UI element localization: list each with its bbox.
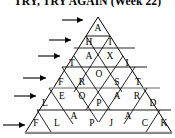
letter-cell: R [131,91,143,101]
arrow-row-6 [3,122,25,128]
letter-cell: K [158,118,170,128]
letter-cell: J [105,118,117,128]
letter-cell: C [139,118,151,128]
letter-cell: T [132,77,144,87]
letter-cell: E [56,91,68,101]
letter-cell: P [93,98,105,108]
letter-cell: A [111,91,123,101]
letter-cell: R [76,77,88,87]
letter-cell: L [51,118,63,128]
arrow-row-3 [38,53,60,59]
letter-cell: A [68,111,80,121]
letter-cell: A [122,111,134,121]
letter-cell: P [86,118,98,128]
letter-cell: L [39,98,51,108]
puzzle-figure: TRY, TRY AGAIN (Week 22) [0,0,175,138]
letter-cell: I [104,37,116,47]
arrow-row-4 [23,75,46,81]
letter-cell: H [83,37,95,47]
letter-cell: I [121,58,133,68]
letter-cell: A [83,51,95,61]
letter-cell: X [104,51,116,61]
letter-cell: F [30,118,42,128]
letter-cell: O [76,91,88,101]
letter-cell: O [93,69,105,79]
letter-cell: F [55,77,67,87]
letter-cell: T [66,58,78,68]
letter-cell: S [111,77,123,87]
arrow-row-2 [49,37,71,43]
letter-cell: A [92,23,104,33]
arrow-row-1 [62,17,83,23]
letter-cell: D [147,98,159,108]
arrow-row-5 [14,93,36,99]
